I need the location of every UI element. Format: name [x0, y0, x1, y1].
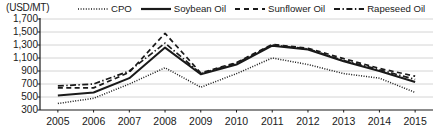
- x-tick-label-2008: 2008: [153, 115, 176, 128]
- chart-container: (USD/MT) CPO Soybean Oil: [0, 0, 435, 131]
- legend-label-rapeseed-oil: Rapeseed Oil: [367, 4, 425, 14]
- legend-swatch-solid-icon: [141, 5, 171, 13]
- x-tick-label-2010: 2010: [225, 115, 248, 128]
- x-tick-label-2015: 2015: [403, 115, 426, 128]
- legend-item-soybean-oil[interactable]: Soybean Oil: [141, 4, 226, 14]
- legend-swatch-dotted-icon: [78, 5, 108, 13]
- x-tick-label-2005: 2005: [46, 115, 69, 128]
- chart-legend: CPO Soybean Oil Sunflower Oil: [78, 2, 433, 16]
- chart-plot-svg: [0, 16, 435, 113]
- x-axis-tick-labels: 2005200620072008200920102011201220132014…: [0, 114, 435, 131]
- x-tick-label-2012: 2012: [296, 115, 319, 128]
- legend-item-rapeseed-oil[interactable]: Rapeseed Oil: [334, 4, 425, 14]
- x-tick-label-2009: 2009: [189, 115, 212, 128]
- legend-item-cpo[interactable]: CPO: [78, 4, 132, 14]
- legend-item-sunflower-oil[interactable]: Sunflower Oil: [235, 4, 325, 14]
- x-tick-label-2013: 2013: [332, 115, 355, 128]
- series-line-soybean-oil: [58, 46, 415, 96]
- legend-label-sunflower-oil: Sunflower Oil: [268, 4, 325, 14]
- legend-swatch-dashed-icon: [235, 5, 265, 13]
- legend-swatch-dashdot-icon: [334, 5, 364, 13]
- legend-label-soybean-oil: Soybean Oil: [174, 4, 226, 14]
- x-tick-label-2014: 2014: [368, 115, 391, 128]
- x-tick-label-2007: 2007: [118, 115, 141, 128]
- y-axis-unit-label: (USD/MT): [6, 2, 49, 13]
- x-tick-label-2006: 2006: [82, 115, 105, 128]
- plot-area: [0, 16, 435, 113]
- legend-label-cpo: CPO: [111, 4, 132, 14]
- x-tick-label-2011: 2011: [261, 115, 284, 128]
- series-line-sunflower-oil: [58, 33, 415, 88]
